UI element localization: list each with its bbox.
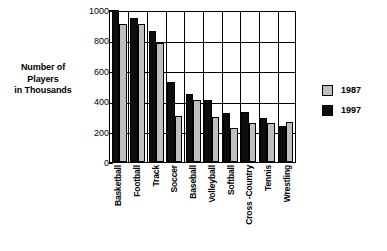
plot-area bbox=[109, 11, 296, 163]
bar-1987 bbox=[193, 100, 201, 162]
bar-1987 bbox=[249, 123, 257, 162]
bar-1997 bbox=[149, 31, 157, 162]
bar-1987 bbox=[156, 43, 164, 162]
y-tick-label: 600 bbox=[81, 67, 109, 76]
bar-1997 bbox=[186, 94, 194, 162]
bar-1987 bbox=[267, 123, 275, 162]
x-label-cell: Volleyball bbox=[203, 163, 222, 249]
bar-group bbox=[221, 12, 240, 162]
x-label-cell: Football bbox=[128, 163, 147, 249]
bar-group bbox=[166, 12, 185, 162]
legend-label: 1997 bbox=[341, 106, 361, 115]
x-tick-label: Basketball bbox=[114, 165, 123, 206]
y-tick-label: 800 bbox=[81, 37, 109, 46]
x-label-cell: Tennis bbox=[259, 163, 278, 249]
y-axis-title-line-3: in Thousands bbox=[4, 85, 82, 97]
x-axis-category-labels: BasketballFootballTrackSoccerBaseballVol… bbox=[109, 163, 296, 249]
y-axis-tick-labels: 10008006004002000 bbox=[76, 11, 109, 163]
bar-1987 bbox=[286, 122, 294, 162]
x-label-cell: Baseball bbox=[184, 163, 203, 249]
x-label-cell: Cross -Country bbox=[240, 163, 259, 249]
bar-group bbox=[147, 12, 166, 162]
y-axis-title-line-2: Players bbox=[4, 74, 82, 86]
legend-swatch bbox=[322, 105, 333, 116]
bar-chart: Number of Players in Thousands 100080060… bbox=[0, 0, 387, 251]
x-tick-label: Soccer bbox=[170, 165, 179, 192]
legend-label: 1987 bbox=[341, 86, 361, 95]
x-tick-label: Track bbox=[151, 165, 160, 186]
x-tick-label: Cross -Country bbox=[245, 165, 254, 225]
bar-group bbox=[258, 12, 277, 162]
y-tick-label: 400 bbox=[81, 98, 109, 107]
bar-1987 bbox=[212, 117, 220, 162]
bar-1997 bbox=[130, 18, 138, 162]
bar-1997 bbox=[223, 113, 231, 162]
bar-1997 bbox=[112, 10, 120, 162]
x-tick-label: Softball bbox=[226, 165, 235, 195]
bar-1987 bbox=[175, 116, 183, 162]
y-axis-title: Number of Players in Thousands bbox=[4, 62, 82, 97]
bar-1987 bbox=[138, 24, 146, 162]
bar-group bbox=[240, 12, 259, 162]
bar-1997 bbox=[167, 82, 175, 162]
legend: 19871997 bbox=[322, 83, 384, 123]
x-tick-label: Baseball bbox=[189, 165, 198, 199]
bar-1997 bbox=[260, 118, 268, 162]
x-label-cell: Basketball bbox=[109, 163, 128, 249]
x-label-cell: Track bbox=[146, 163, 165, 249]
bar-group bbox=[110, 12, 129, 162]
bar-group bbox=[203, 12, 222, 162]
y-tick-label: 200 bbox=[81, 128, 109, 137]
x-tick-label: Wrestling bbox=[282, 165, 291, 202]
bar-group bbox=[277, 12, 296, 162]
legend-item: 1997 bbox=[322, 103, 384, 118]
legend-swatch bbox=[322, 85, 333, 96]
bar-1987 bbox=[230, 128, 238, 162]
bar-1997 bbox=[278, 126, 286, 162]
x-tick-label: Volleyball bbox=[207, 165, 216, 203]
x-tick-label: Football bbox=[133, 165, 142, 197]
bar-1997 bbox=[241, 112, 249, 162]
legend-item: 1987 bbox=[322, 83, 384, 98]
y-tick-label: 0 bbox=[81, 159, 109, 168]
bar-group bbox=[129, 12, 148, 162]
x-label-cell: Soccer bbox=[165, 163, 184, 249]
y-tick-label: 1000 bbox=[81, 7, 109, 16]
x-label-cell: Wrestling bbox=[277, 163, 296, 249]
bar-1987 bbox=[119, 24, 127, 162]
x-tick-label: Tennis bbox=[263, 165, 272, 191]
y-axis-title-line-1: Number of bbox=[4, 62, 82, 74]
bar-groups bbox=[110, 12, 295, 162]
bar-group bbox=[184, 12, 203, 162]
bar-1997 bbox=[204, 100, 212, 162]
x-label-cell: Softball bbox=[221, 163, 240, 249]
